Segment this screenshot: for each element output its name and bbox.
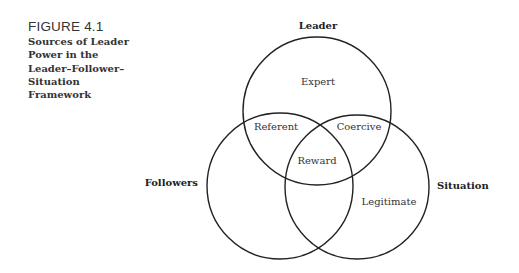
venn-diagram: Leader Followers Situation Expert Refere… [0, 0, 519, 273]
referent-region: Referent [254, 121, 298, 132]
followers-circle [207, 113, 353, 259]
expert-region: Expert [301, 76, 335, 87]
situation-label: Situation [437, 180, 489, 191]
reward-region: Reward [297, 155, 337, 166]
followers-label: Followers [145, 177, 199, 188]
situation-circle [285, 115, 429, 259]
legitimate-region: Legitimate [362, 196, 417, 207]
leader-label: Leader [299, 20, 338, 31]
coercive-region: Coercive [337, 121, 382, 132]
